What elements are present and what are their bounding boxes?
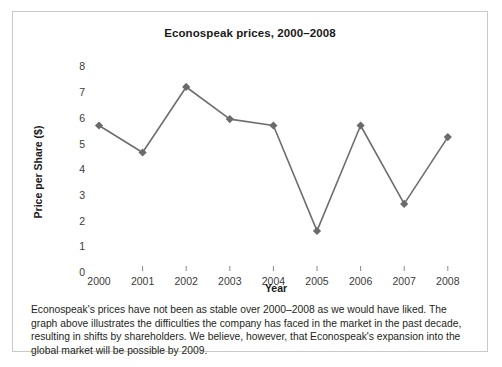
y-axis-tick-labels: 012345678 <box>79 60 85 278</box>
x-tick-label: 2007 <box>393 275 417 287</box>
y-tick-label: 5 <box>79 138 85 150</box>
y-tick-label: 1 <box>79 240 85 252</box>
y-tick-label: 4 <box>79 163 85 175</box>
x-tick-label: 2002 <box>175 275 199 287</box>
x-tick-label: 2001 <box>131 275 155 287</box>
line-chart-plot: 012345678 200020012002200320042005200620… <box>13 12 487 295</box>
data-point-marker <box>95 121 103 129</box>
data-point-marker <box>444 133 452 141</box>
x-tick-label: 2003 <box>218 275 242 287</box>
caption-text: Econospeak's prices have not been as sta… <box>31 303 471 357</box>
y-tick-label: 0 <box>79 266 85 278</box>
figure-frame: Econospeak prices, 2000–2008 012345678 2… <box>12 11 488 352</box>
x-tick-label: 2008 <box>436 275 460 287</box>
y-tick-label: 6 <box>79 112 85 124</box>
x-tick-label: 2005 <box>305 275 329 287</box>
x-tick-label: 2006 <box>349 275 373 287</box>
price-data-markers <box>95 83 452 235</box>
y-axis-title: Price per Share ($) <box>32 126 44 219</box>
data-point-marker <box>357 121 365 129</box>
x-axis-tick-marks <box>143 266 448 271</box>
data-point-marker <box>400 200 408 208</box>
x-tick-label: 2000 <box>87 275 111 287</box>
price-line-series <box>99 87 448 231</box>
y-tick-label: 2 <box>79 215 85 227</box>
y-tick-label: 8 <box>79 60 85 72</box>
chart-area: Econospeak prices, 2000–2008 012345678 2… <box>13 12 487 295</box>
data-point-marker <box>269 121 277 129</box>
figure-caption: Econospeak's prices have not been as sta… <box>31 303 471 357</box>
y-tick-label: 3 <box>79 189 85 201</box>
x-axis-title: Year <box>265 282 287 294</box>
y-tick-label: 7 <box>79 86 85 98</box>
data-point-marker <box>313 227 321 235</box>
